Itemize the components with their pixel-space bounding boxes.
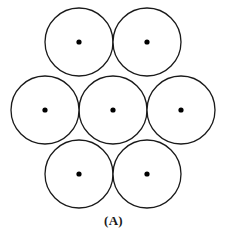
center-dot-bottom-left (76, 171, 81, 176)
center-dot-bottom-right (144, 171, 149, 176)
figure-container: (A) (0, 0, 227, 238)
center-dot-top-left (76, 39, 81, 44)
center-dot-middle-left (42, 107, 47, 112)
center-dot-center (110, 107, 115, 112)
circle-packing-diagram (0, 0, 227, 238)
figure-caption: (A) (0, 213, 227, 229)
center-dot-middle-right (178, 107, 183, 112)
center-dot-top-right (144, 39, 149, 44)
